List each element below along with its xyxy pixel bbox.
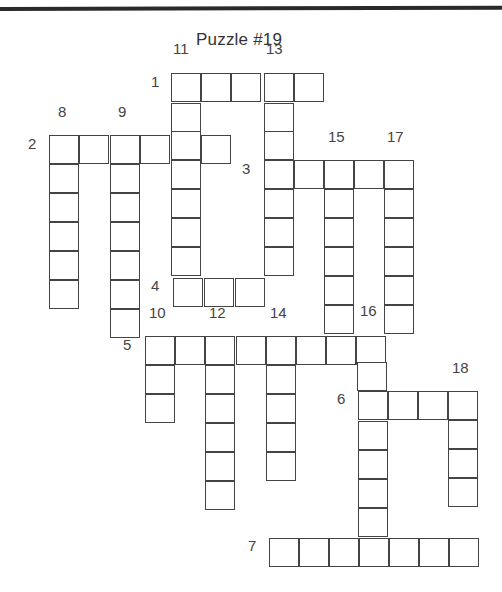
grid-cell[interactable] bbox=[49, 193, 79, 222]
cell-letter-input[interactable] bbox=[265, 219, 293, 246]
grid-cell[interactable] bbox=[384, 305, 414, 334]
cell-letter-input[interactable] bbox=[385, 248, 413, 275]
grid-cell[interactable] bbox=[266, 452, 296, 481]
cell-letter-input[interactable] bbox=[172, 248, 200, 275]
cell-letter-input[interactable] bbox=[327, 337, 355, 364]
cell-letter-input[interactable] bbox=[385, 190, 413, 217]
cell-letter-input[interactable] bbox=[385, 277, 413, 304]
grid-cell[interactable] bbox=[235, 278, 265, 307]
grid-cell[interactable] bbox=[205, 481, 235, 510]
grid-cell[interactable] bbox=[236, 336, 266, 365]
cell-letter-input[interactable] bbox=[172, 161, 200, 188]
grid-cell[interactable] bbox=[145, 394, 175, 423]
cell-letter-input[interactable] bbox=[295, 74, 323, 101]
cell-letter-input[interactable] bbox=[172, 190, 200, 217]
grid-cell[interactable] bbox=[145, 336, 175, 365]
grid-cell[interactable] bbox=[266, 365, 296, 394]
grid-cell[interactable] bbox=[264, 73, 294, 102]
cell-letter-input[interactable] bbox=[265, 74, 293, 101]
grid-cell[interactable] bbox=[358, 391, 388, 420]
cell-letter-input[interactable] bbox=[176, 337, 204, 364]
grid-cell[interactable] bbox=[79, 135, 109, 164]
cell-letter-input[interactable] bbox=[297, 337, 325, 364]
grid-cell[interactable] bbox=[359, 538, 389, 567]
grid-cell[interactable] bbox=[449, 538, 479, 567]
grid-cell[interactable] bbox=[110, 251, 140, 280]
grid-cell[interactable] bbox=[140, 135, 170, 164]
cell-letter-input[interactable] bbox=[50, 194, 78, 221]
cell-letter-input[interactable] bbox=[206, 453, 234, 480]
cell-letter-input[interactable] bbox=[450, 539, 478, 566]
grid-cell[interactable] bbox=[358, 508, 388, 537]
grid-cell[interactable] bbox=[354, 160, 384, 189]
cell-letter-input[interactable] bbox=[325, 248, 353, 275]
cell-letter-input[interactable] bbox=[359, 392, 387, 419]
cell-letter-input[interactable] bbox=[172, 104, 200, 131]
cell-letter-input[interactable] bbox=[325, 277, 353, 304]
grid-cell[interactable] bbox=[448, 391, 478, 420]
grid-cell[interactable] bbox=[419, 538, 449, 567]
cell-letter-input[interactable] bbox=[111, 223, 139, 250]
cell-letter-input[interactable] bbox=[449, 450, 477, 477]
grid-cell[interactable] bbox=[294, 160, 324, 189]
cell-letter-input[interactable] bbox=[172, 74, 200, 101]
grid-cell[interactable] bbox=[171, 73, 201, 102]
grid-cell[interactable] bbox=[266, 394, 296, 423]
cell-letter-input[interactable] bbox=[420, 539, 448, 566]
cell-letter-input[interactable] bbox=[267, 424, 295, 451]
cell-letter-input[interactable] bbox=[265, 104, 293, 131]
grid-cell[interactable] bbox=[448, 449, 478, 478]
grid-cell[interactable] bbox=[201, 135, 231, 164]
cell-letter-input[interactable] bbox=[449, 479, 477, 506]
cell-letter-input[interactable] bbox=[355, 161, 383, 188]
cell-letter-input[interactable] bbox=[325, 161, 353, 188]
grid-cell[interactable] bbox=[448, 420, 478, 449]
cell-letter-input[interactable] bbox=[111, 136, 139, 163]
cell-letter-input[interactable] bbox=[172, 132, 200, 159]
cell-letter-input[interactable] bbox=[325, 219, 353, 246]
cell-letter-input[interactable] bbox=[202, 136, 230, 163]
cell-letter-input[interactable] bbox=[359, 480, 387, 507]
grid-cell[interactable] bbox=[205, 336, 235, 365]
cell-letter-input[interactable] bbox=[111, 252, 139, 279]
cell-letter-input[interactable] bbox=[206, 395, 234, 422]
cell-letter-input[interactable] bbox=[206, 366, 234, 393]
cell-letter-input[interactable] bbox=[270, 539, 298, 566]
grid-cell[interactable] bbox=[110, 164, 140, 193]
grid-cell[interactable] bbox=[384, 276, 414, 305]
cell-letter-input[interactable] bbox=[111, 310, 139, 337]
grid-cell[interactable] bbox=[264, 160, 294, 189]
grid-cell[interactable] bbox=[205, 365, 235, 394]
grid-cell[interactable] bbox=[49, 251, 79, 280]
cell-letter-input[interactable] bbox=[206, 424, 234, 451]
grid-cell[interactable] bbox=[171, 247, 201, 276]
cell-letter-input[interactable] bbox=[265, 161, 293, 188]
cell-letter-input[interactable] bbox=[449, 421, 477, 448]
grid-cell[interactable] bbox=[205, 452, 235, 481]
grid-cell[interactable] bbox=[49, 135, 79, 164]
cell-letter-input[interactable] bbox=[385, 219, 413, 246]
cell-letter-input[interactable] bbox=[206, 337, 234, 364]
grid-cell[interactable] bbox=[171, 103, 201, 132]
grid-cell[interactable] bbox=[171, 218, 201, 247]
grid-cell[interactable] bbox=[49, 280, 79, 309]
grid-cell[interactable] bbox=[269, 538, 299, 567]
cell-letter-input[interactable] bbox=[325, 190, 353, 217]
cell-letter-input[interactable] bbox=[265, 190, 293, 217]
grid-cell[interactable] bbox=[264, 103, 294, 132]
cell-letter-input[interactable] bbox=[267, 395, 295, 422]
grid-cell[interactable] bbox=[175, 336, 205, 365]
grid-cell[interactable] bbox=[110, 309, 140, 338]
grid-cell[interactable] bbox=[201, 73, 231, 102]
grid-cell[interactable] bbox=[110, 135, 140, 164]
grid-cell[interactable] bbox=[358, 479, 388, 508]
cell-letter-input[interactable] bbox=[50, 165, 78, 192]
cell-letter-input[interactable] bbox=[390, 539, 418, 566]
cell-letter-input[interactable] bbox=[146, 366, 174, 393]
cell-letter-input[interactable] bbox=[172, 219, 200, 246]
grid-cell[interactable] bbox=[358, 421, 388, 450]
cell-letter-input[interactable] bbox=[146, 395, 174, 422]
cell-letter-input[interactable] bbox=[206, 482, 234, 509]
grid-cell[interactable] bbox=[384, 218, 414, 247]
grid-cell[interactable] bbox=[264, 247, 294, 276]
